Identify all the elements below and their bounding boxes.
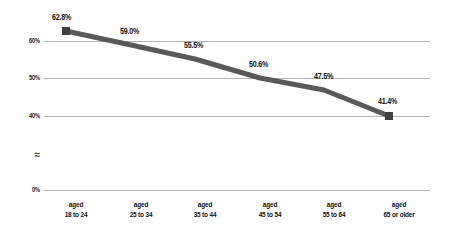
x-tick-label-5-line1: aged [367, 200, 431, 210]
y-tick-label-50: 50% [17, 74, 40, 81]
series-polyline [66, 31, 389, 116]
data-point-marker-5 [385, 112, 393, 120]
x-tick-label-4-line2: 55 to 64 [302, 210, 366, 220]
data-point-marker-0 [62, 27, 70, 35]
series-line-percent [44, 10, 430, 192]
x-tick-label-2-line1: aged [173, 200, 237, 210]
x-tick-label-2: aged 35 to 44 [168, 200, 242, 220]
y-tick-label-40: 40% [17, 112, 40, 119]
data-label-3: 50.6% [249, 59, 268, 69]
x-tick-label-1-line2: 25 to 34 [109, 210, 173, 220]
y-tick-label-60: 60% [17, 37, 40, 44]
x-tick-label-3-line1: aged [238, 200, 302, 210]
x-axis-labels: aged 18 to 24 aged 25 to 34 aged 35 to 4… [44, 200, 430, 236]
data-label-1: 59.0% [120, 26, 139, 36]
x-tick-label-3: aged 45 to 54 [233, 200, 307, 220]
y-axis-break-icon: ≈ [12, 150, 40, 160]
x-tick-label-1-line1: aged [109, 200, 173, 210]
x-tick-label-3-line2: 45 to 54 [238, 210, 302, 220]
data-label-5: 41.4% [378, 96, 397, 106]
plot-area: 62.8% 59.0% 55.5% 50.6% 47.5% 41.4% [44, 10, 430, 192]
x-tick-label-1: aged 25 to 34 [104, 200, 178, 220]
x-tick-label-2-line2: 35 to 44 [173, 210, 237, 220]
data-label-0: 62.8% [52, 12, 71, 22]
x-tick-label-0-line2: 18 to 24 [44, 210, 108, 220]
data-label-4: 47.5% [314, 71, 333, 81]
x-tick-label-5-line2: 65 or older [367, 210, 431, 220]
data-label-2: 55.5% [184, 40, 203, 50]
x-tick-label-4: aged 55 to 64 [297, 200, 371, 220]
y-tick-label-0: 0% [17, 186, 40, 193]
x-tick-label-0-line1: aged [44, 200, 108, 210]
x-tick-label-0: aged 18 to 24 [39, 200, 113, 220]
line-chart: 60% 50% 40% ≈ 0% 62.8% 59.0% 55.5% 50.6%… [0, 0, 454, 244]
x-tick-label-4-line1: aged [302, 200, 366, 210]
x-tick-label-5: aged 65 or older [362, 200, 436, 220]
